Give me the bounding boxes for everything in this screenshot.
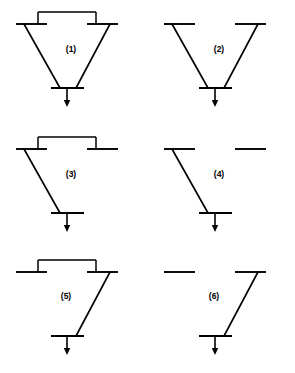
right-feeder-line [76,24,110,88]
load-arrow-head [212,348,218,355]
left-feeder-line [172,24,208,88]
diagram-d1: (1) [16,12,118,107]
left-feeder-line [172,149,208,213]
load-arrow-head [64,348,70,355]
right-feeder-line [224,272,258,336]
load-arrow-head [212,225,218,232]
left-feeder-line [24,24,60,88]
diagram-d5: (5) [16,260,118,355]
right-feeder-line [224,24,258,88]
diagram-label-d6: (6) [209,291,220,301]
diagram-d4: (4) [164,149,266,232]
diagram-d6: (6) [164,272,266,355]
diagram-canvas: (1)(2)(3)(4)(5)(6) [0,0,295,373]
diagram-label-d3: (3) [66,169,77,179]
diagram-d3: (3) [16,137,118,232]
power-system-diagram-figure: (1)(2)(3)(4)(5)(6) [0,0,295,373]
load-arrow-head [64,100,70,107]
right-feeder-line [76,272,110,336]
left-feeder-line [24,149,60,213]
load-arrow-head [212,100,218,107]
diagram-label-d1: (1) [66,44,77,54]
diagram-label-d2: (2) [214,44,225,54]
diagram-d2: (2) [164,24,266,107]
diagram-label-d4: (4) [214,169,225,179]
diagram-label-d5: (5) [61,291,72,301]
load-arrow-head [64,225,70,232]
